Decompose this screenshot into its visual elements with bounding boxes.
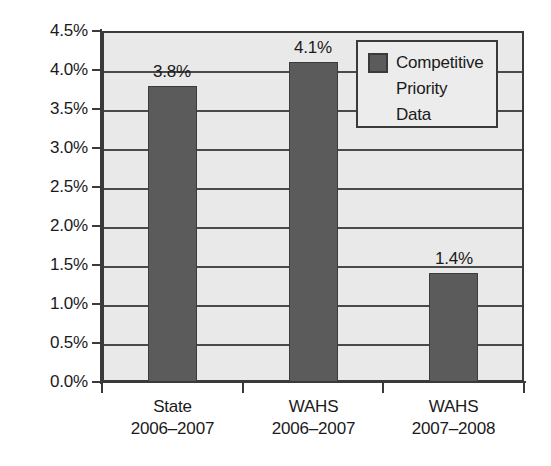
y-axis-tick-label: 4.5% xyxy=(26,22,88,39)
bar xyxy=(289,62,338,382)
legend: Competitive Priority Data xyxy=(356,40,498,128)
y-axis-tick-label: 2.5% xyxy=(26,178,88,195)
y-axis-tick xyxy=(92,69,102,71)
y-axis-tick xyxy=(92,342,102,344)
legend-label-line-2: Priority xyxy=(396,76,496,102)
x-axis-category-label-line-2: 2006–2007 xyxy=(243,418,384,440)
y-axis-line xyxy=(100,29,102,384)
x-axis-category-label-line-1: WAHS xyxy=(429,397,479,416)
y-axis-tick xyxy=(92,30,102,32)
legend-swatch-icon xyxy=(368,53,388,73)
x-axis-category-label: WAHS2007–2008 xyxy=(383,396,524,440)
y-axis-tick-label: 2.0% xyxy=(26,217,88,234)
legend-label: Competitive Priority Data xyxy=(396,50,496,128)
x-axis-tick xyxy=(523,382,525,393)
x-axis-tick xyxy=(101,382,103,393)
y-axis-tick xyxy=(92,147,102,149)
legend-label-line-1: Competitive xyxy=(396,50,496,76)
x-axis-line xyxy=(100,381,526,383)
y-axis-tick xyxy=(92,108,102,110)
y-axis-tick-label: 3.5% xyxy=(26,100,88,117)
x-axis-tick xyxy=(242,382,244,393)
x-axis-category-label-line-2: 2006–2007 xyxy=(102,418,243,440)
y-axis-tick xyxy=(92,264,102,266)
y-axis-tick-label: 4.0% xyxy=(26,61,88,78)
bar-chart: 4.5%4.0%3.5%3.0%2.5%2.0%1.5%1.0%0.5%0.0%… xyxy=(0,0,551,466)
legend-label-line-3: Data xyxy=(396,102,496,128)
bar-value-label: 1.4% xyxy=(409,250,499,267)
bar-value-label: 4.1% xyxy=(268,39,358,56)
y-axis-tick xyxy=(92,186,102,188)
x-axis-category-label: WAHS2006–2007 xyxy=(243,396,384,440)
bar xyxy=(148,86,197,382)
y-axis-tick xyxy=(92,225,102,227)
bar xyxy=(429,273,478,382)
y-axis-tick-label: 3.0% xyxy=(26,139,88,156)
x-axis-category-label-line-1: State xyxy=(153,397,192,416)
y-axis-tick-label: 0.0% xyxy=(26,373,88,390)
y-axis-tick xyxy=(92,303,102,305)
y-axis-tick-label: 0.5% xyxy=(26,334,88,351)
x-axis-category-label: State2006–2007 xyxy=(102,396,243,440)
x-axis-category-label-line-2: 2007–2008 xyxy=(383,418,524,440)
x-axis-tick xyxy=(382,382,384,393)
x-axis-category-label-line-1: WAHS xyxy=(289,397,339,416)
y-axis-tick-label: 1.0% xyxy=(26,295,88,312)
y-axis-tick-label: 1.5% xyxy=(26,256,88,273)
bar-value-label: 3.8% xyxy=(127,63,217,80)
